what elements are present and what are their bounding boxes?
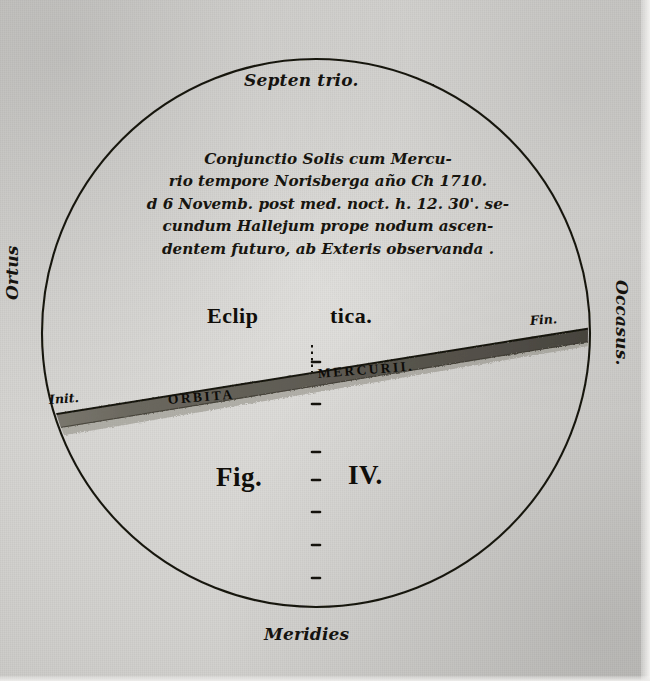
figure-numeral: IV. [348, 460, 383, 491]
orbit-lower-edge [38, 340, 598, 431]
cardinal-label-north: Septen trio. [244, 70, 359, 90]
ecliptic-label-right: tica. [330, 303, 372, 329]
figure-canvas [0, 0, 650, 681]
cardinal-label-west: Occasus. [612, 280, 632, 366]
inscription-line-3: d 6 Novemb. post med. noct. h. 12. 30'. … [118, 193, 538, 215]
egress-marker-label: Fin. [529, 311, 557, 328]
orbit-band-group [36, 327, 600, 440]
latin-inscription: Conjunctio Solis cum Mercu- rio tempore … [118, 148, 538, 260]
cardinal-label-south: Meridies [264, 624, 349, 644]
inscription-line-4: cundum Hallejum prope nodum ascen- [118, 215, 538, 237]
figure-label: Fig. [216, 462, 262, 493]
cardinal-label-east: Ortus [2, 245, 22, 300]
ecliptic-label-left: Eclip [207, 303, 258, 329]
inscription-line-5: dentem futuro, ab Exteris observanda . [118, 238, 538, 260]
inscription-line-2: rio tempore Norisberga año Ch 1710. [118, 170, 538, 192]
ingress-marker-label: Init. [48, 390, 79, 407]
inscription-line-1: Conjunctio Solis cum Mercu- [118, 148, 538, 170]
